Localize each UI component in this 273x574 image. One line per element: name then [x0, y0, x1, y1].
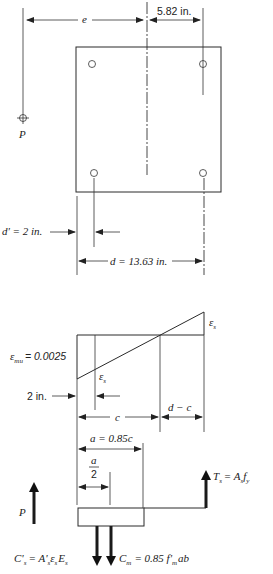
- 582-label: 5.82 in.: [157, 5, 191, 17]
- column-section-diagram: e 5.82 in. P d' = 2 in. d = 13.63 in.: [0, 0, 273, 574]
- es-label: εs: [209, 316, 216, 331]
- esprime-label: εs: [99, 370, 106, 385]
- cm-label: Cm= 0.85 f'mab: [119, 552, 190, 567]
- csprime-label: C's= A'sεsEs: [14, 552, 68, 567]
- rebar-top-left: [89, 61, 96, 68]
- dminusc-label: d − c: [168, 401, 191, 413]
- compression-block: [78, 508, 144, 526]
- a2-denominator: 2: [91, 468, 97, 480]
- load-point-icon: [17, 112, 29, 124]
- force-diagram: a = 0.85c a 2 P Ts= Asfy C's= A'sεsEs Cm…: [14, 432, 250, 567]
- e-label: e: [82, 13, 87, 25]
- rebar-bottom-right: [200, 170, 207, 177]
- p-label-bottom: P: [18, 506, 26, 518]
- cross-section: e 5.82 in. P d' = 2 in. d = 13.63 in.: [2, 2, 221, 275]
- p-label-top: P: [18, 128, 26, 140]
- a-label: a = 0.85c: [90, 432, 133, 444]
- strain-profile: [77, 312, 204, 379]
- c-label: c: [115, 411, 120, 423]
- ts-label: Ts= Asfy: [213, 470, 250, 485]
- dprime-label: d' = 2 in.: [2, 225, 42, 237]
- a2-numerator: a: [91, 454, 97, 466]
- rebar-bottom-left: [91, 170, 98, 177]
- column-outline: [76, 47, 221, 192]
- 2in-label: 2 in.: [27, 390, 47, 402]
- strain-diagram: εs εmu= 0.0025 εs 2 in. c d − c: [10, 312, 216, 505]
- d-label: d = 13.63 in.: [110, 255, 167, 267]
- emu-label: εmu= 0.0025: [10, 350, 66, 365]
